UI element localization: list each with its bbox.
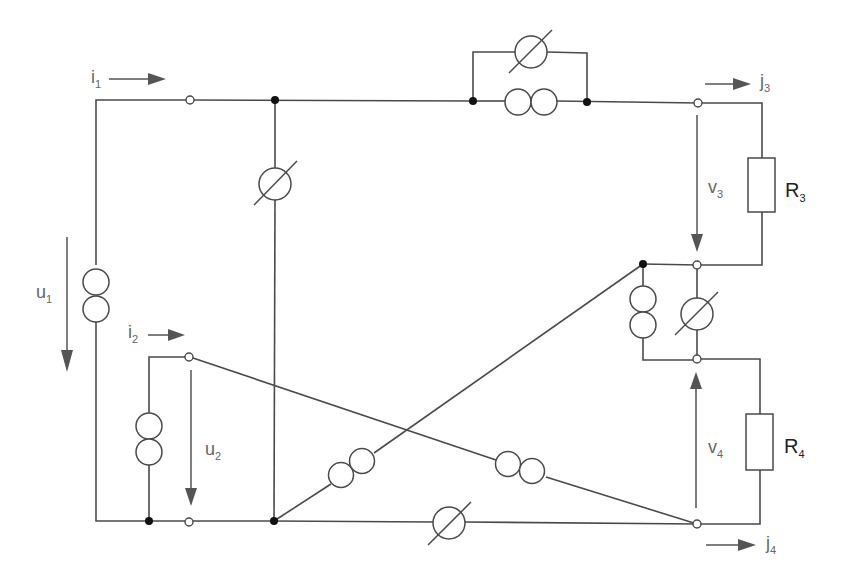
meter-bottom-symbol: [428, 502, 471, 545]
label-R3-sub: 3: [799, 192, 805, 204]
label-R4: R4: [784, 436, 805, 460]
resistor-R4-symbol: [746, 414, 773, 470]
voltage-arrow-u2: [185, 370, 197, 506]
transformer-u1-symbol: [83, 269, 109, 322]
label-j3-sub: 3: [764, 82, 770, 94]
label-u2-sub: 2: [215, 450, 221, 462]
label-i1-sub: 1: [95, 78, 101, 90]
wires: [96, 52, 762, 524]
resistor-R3-symbol: [748, 158, 775, 212]
current-arrow-i1: [109, 73, 166, 85]
label-v4-main: v: [708, 437, 717, 457]
voltage-arrow-u1: [61, 237, 73, 372]
circuit-diagram: i1 i2 j3 j4 u1 u2 v3 v4 R3 R4: [0, 0, 845, 588]
label-v4-sub: 4: [717, 448, 723, 460]
label-v3: v3: [708, 178, 723, 200]
label-i2: i2: [128, 323, 138, 345]
label-j4-sub: 4: [770, 544, 776, 556]
label-R4-main: R: [784, 435, 798, 457]
label-j3: j3: [760, 72, 770, 94]
current-arrow-j4: [706, 539, 756, 551]
meter-mid-symbol: [675, 292, 718, 335]
label-i1: i1: [91, 68, 101, 90]
label-R3: R3: [785, 180, 806, 204]
voltage-arrow-v3: [691, 115, 703, 252]
label-u1-sub: 1: [46, 293, 52, 305]
label-u1-main: u: [36, 282, 46, 302]
current-arrow-j3: [705, 78, 751, 90]
label-i2-sub: 2: [132, 333, 138, 345]
label-u1: u1: [36, 283, 52, 305]
label-v3-main: v: [708, 177, 717, 197]
transformer-top-symbol: [505, 89, 557, 115]
voltage-arrow-v4: [690, 372, 702, 508]
label-u2-main: u: [205, 439, 215, 459]
label-v4: v4: [708, 438, 723, 460]
transformer-mid-symbol: [630, 286, 656, 338]
current-arrow-i2: [148, 329, 185, 341]
meter-vertical-left-symbol: [254, 161, 297, 205]
transformer-diag-up-symbol: [329, 449, 375, 488]
meter-top-symbol: [509, 30, 552, 73]
label-R4-sub: 4: [798, 448, 804, 460]
label-u2: u2: [205, 440, 221, 462]
terminal-nodes: [185, 96, 702, 528]
label-j4: j4: [766, 534, 776, 556]
label-R3-main: R: [785, 179, 799, 201]
circuit-schematic: [0, 0, 845, 588]
transformer-diag-down-symbol: [496, 452, 545, 484]
transformer-u2-symbol: [136, 413, 162, 465]
label-v3-sub: 3: [717, 188, 723, 200]
